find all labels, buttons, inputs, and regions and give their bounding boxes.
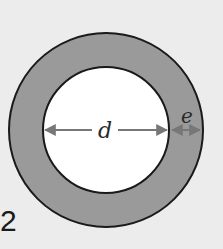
diagram-canvas: d e 2 [0,0,223,249]
ring-diagram: d e [0,0,223,249]
figure-number: 2 [0,206,17,236]
thickness-label: e [181,104,193,128]
diameter-label: d [98,118,112,143]
